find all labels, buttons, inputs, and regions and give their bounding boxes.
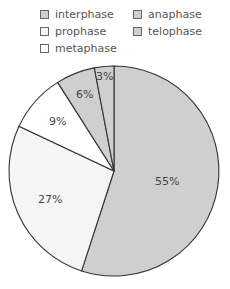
slice-label-prophase: 27% (38, 193, 62, 206)
slice-label-metaphase: 9% (49, 115, 66, 128)
slice-label-anaphase: 6% (76, 88, 93, 101)
slice-label-telophase: 3% (96, 70, 113, 83)
pie-chart: 55% 27% 9% 6% 3% (0, 0, 230, 289)
slice-label-interphase: 55% (155, 175, 179, 188)
